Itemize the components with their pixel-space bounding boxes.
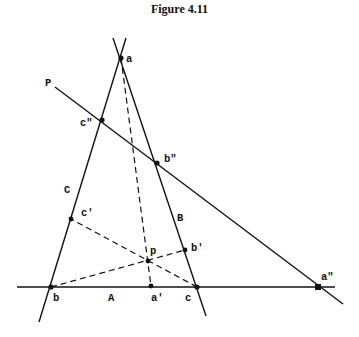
point-b2	[154, 160, 159, 165]
dashed-b-b1	[51, 250, 185, 287]
label-a1: a'	[151, 292, 164, 304]
label-a: a	[126, 53, 133, 65]
point-a1	[149, 284, 154, 289]
label-c2: c"	[80, 117, 93, 129]
label-b1: b'	[191, 242, 204, 254]
label-p: p	[150, 245, 156, 257]
label-b: b	[53, 292, 59, 304]
dashed-a-a1	[121, 58, 151, 286]
point-a2	[315, 284, 321, 290]
label-line-C: C	[64, 184, 71, 196]
label-b2: b"	[164, 153, 177, 165]
line-B	[113, 38, 206, 316]
label-line-P: P	[45, 77, 51, 89]
point-p	[146, 259, 151, 264]
line-C	[39, 38, 126, 322]
point-b1	[183, 248, 188, 253]
label-c1: c'	[81, 207, 94, 219]
label-c: c	[185, 292, 191, 304]
point-c1	[69, 217, 74, 222]
label-line-A: A	[108, 292, 115, 304]
geometry-diagram: a b c a' b' c' a" b" c" p A B C P	[0, 0, 359, 337]
line-P	[55, 87, 343, 304]
point-b	[48, 284, 53, 289]
label-a2: a"	[321, 271, 334, 283]
point-c2	[99, 117, 104, 122]
point-c	[194, 284, 199, 289]
point-a	[118, 55, 123, 60]
label-line-B: B	[177, 212, 184, 224]
